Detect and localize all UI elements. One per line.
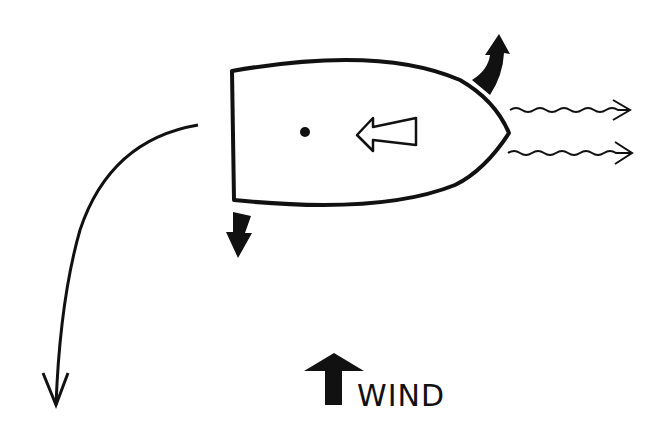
boat-hull xyxy=(232,60,509,205)
bow-movement-arrow xyxy=(472,34,510,95)
stern-movement-arrow xyxy=(226,212,252,258)
prop-wash-arrow-top xyxy=(510,108,630,112)
prop-wash-arrow-bottom xyxy=(508,151,632,155)
boat-maneuver-diagram xyxy=(0,0,659,429)
wind-label: WIND xyxy=(357,378,445,413)
wind-arrow xyxy=(304,353,364,405)
thrust-arrow xyxy=(357,118,416,151)
turning-path-arrow xyxy=(56,125,198,405)
pivot-point xyxy=(300,127,310,137)
